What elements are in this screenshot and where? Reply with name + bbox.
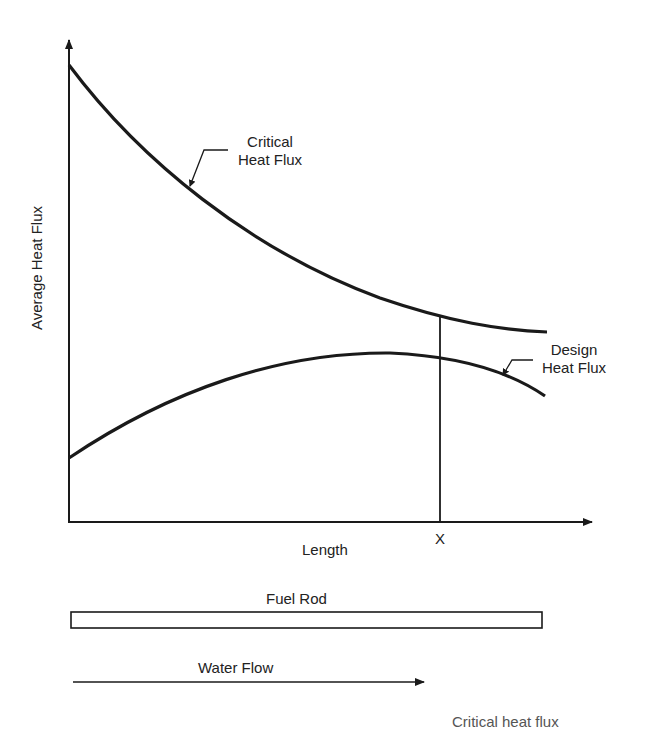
design-label-line1: Design [532, 341, 616, 359]
design-heat-flux-curve [69, 353, 545, 458]
truncated-caption: Critical heat flux [452, 713, 559, 730]
critical-heat-flux-label: Critical Heat Flux [228, 133, 312, 169]
x-axis-label: Length [302, 541, 348, 559]
x-marker-label: X [435, 530, 445, 548]
critical-leader-arrow [190, 150, 228, 186]
design-heat-flux-label: Design Heat Flux [532, 341, 616, 377]
fuel-rod-label: Fuel Rod [266, 590, 327, 608]
critical-label-line1: Critical [228, 133, 312, 151]
fuel-rod-shape [71, 612, 542, 628]
design-label-line2: Heat Flux [532, 359, 616, 377]
design-leader-arrow [503, 360, 533, 375]
critical-heat-flux-curve [69, 65, 547, 332]
critical-label-line2: Heat Flux [228, 151, 312, 169]
y-axis-label: Average Heat Flux [28, 206, 45, 330]
water-flow-label: Water Flow [198, 659, 273, 677]
